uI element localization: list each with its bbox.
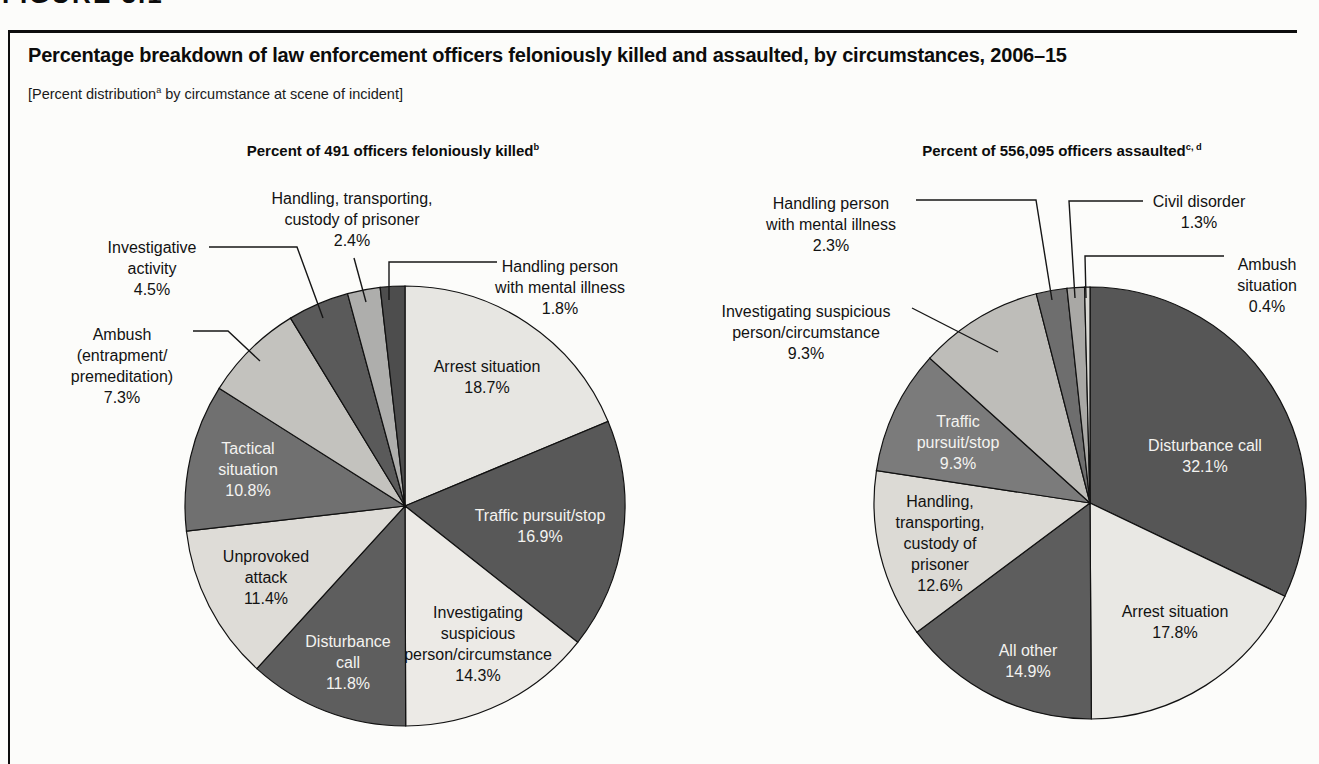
pie-label-traffic-pursuit-stop-killed: Traffic pursuit/stop16.9% <box>475 505 606 547</box>
pie-label-civil-disorder-assaulted: Civil disorder1.3% <box>1153 191 1245 233</box>
leader-line-investigative-activity-killed <box>209 247 323 318</box>
pie-label-handling-person-with-mental-illness-assaulted: Handling personwith mental illness2.3% <box>766 193 896 256</box>
pie-label-traffic-pursuit-stop-assaulted: Trafficpursuit/stop9.3% <box>917 411 1000 474</box>
pie-label-handling-person-with-mental-illness-killed: Handling personwith mental illness1.8% <box>495 256 625 319</box>
figure-page: FIGURE 3.1 Percentage breakdown of law e… <box>0 0 1319 764</box>
pie-label-investigating-suspicious-person-circumstance-killed: Investigatingsuspiciousperson/circumstan… <box>404 602 552 686</box>
pie-label-ambush-entrapment-premeditation-killed: Ambush(entrapment/premeditation)7.3% <box>71 324 173 408</box>
pie-label-investigating-suspicious-person-circumstance-assaulted: Investigating suspiciousperson/circumsta… <box>722 301 891 364</box>
leader-line-handling-person-with-mental-illness-assaulted <box>916 200 1052 300</box>
pie-label-handling-transporting-custody-of-prisoner-killed: Handling, transporting,custody of prison… <box>272 188 433 251</box>
pie-label-investigative-activity-killed: Investigativeactivity4.5% <box>108 237 197 300</box>
pie-label-arrest-situation-killed: Arrest situation18.7% <box>434 356 541 398</box>
pie-label-all-other-assaulted: All other14.9% <box>999 640 1058 682</box>
pie-label-handling-transporting-custody-of-prisoner-assaulted: Handling,transporting,custody ofprisoner… <box>896 491 985 596</box>
pie-charts-canvas <box>0 0 1319 764</box>
leader-line-civil-disorder-assaulted <box>1069 201 1143 298</box>
pie-label-arrest-situation-assaulted: Arrest situation17.8% <box>1122 601 1229 643</box>
pie-label-unprovoked-attack-killed: Unprovokedattack11.4% <box>223 546 309 609</box>
pie-label-disturbance-call-assaulted: Disturbance call32.1% <box>1148 435 1262 477</box>
pie-label-tactical-situation-killed: Tacticalsituation10.8% <box>218 438 278 501</box>
pie-label-ambush-situation-assaulted: Ambushsituation0.4% <box>1237 254 1297 317</box>
pie-label-disturbance-call-killed: Disturbancecall11.8% <box>305 631 390 694</box>
